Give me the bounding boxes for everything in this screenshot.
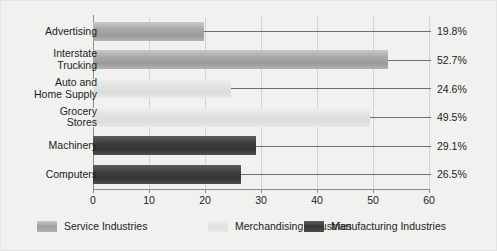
value-label: 52.7% (437, 54, 467, 66)
value-label: 19.8% (437, 25, 467, 37)
legend-label: Service Industries (64, 220, 147, 232)
leader-line (388, 60, 431, 61)
bar[interactable] (93, 136, 256, 155)
leader-line (370, 117, 431, 118)
value-label: 29.1% (437, 140, 467, 152)
x-tick-label: 20 (199, 194, 211, 206)
leader-line (256, 146, 431, 147)
x-tick-label: 50 (367, 194, 379, 206)
leader-line (241, 174, 431, 175)
x-tick-label: 10 (143, 194, 155, 206)
category-label: Interstate Trucking (53, 48, 97, 71)
legend-swatch-service (37, 221, 57, 232)
bar-row (93, 46, 429, 75)
x-tick (429, 189, 430, 193)
legend-item-manufacturing[interactable]: Manufacturing Industries (304, 220, 446, 232)
value-label: 49.5% (437, 111, 467, 123)
chart-legend: Service IndustriesMerchandising Industri… (1, 220, 497, 236)
bar-row (93, 103, 429, 132)
x-tick (373, 189, 374, 193)
value-label: 26.5% (437, 168, 467, 180)
x-tick (149, 189, 150, 193)
category-label: Grocery Stores (60, 106, 97, 129)
bar[interactable] (93, 79, 231, 98)
bar-row (93, 17, 429, 46)
leader-line (231, 88, 431, 89)
x-tick (261, 189, 262, 193)
bar[interactable] (93, 50, 388, 69)
category-label: Advertising (45, 26, 97, 38)
x-tick (317, 189, 318, 193)
bar-row (93, 74, 429, 103)
gridline-60 (429, 17, 430, 189)
category-label: Machinery (49, 140, 97, 152)
legend-label: Manufacturing Industries (331, 220, 446, 232)
leader-line (204, 31, 431, 32)
bar-chart: AdvertisingInterstate TruckingAuto and H… (0, 0, 497, 251)
x-tick (205, 189, 206, 193)
legend-item-service[interactable]: Service Industries (37, 220, 147, 232)
x-tick-label: 30 (255, 194, 267, 206)
bar[interactable] (93, 108, 370, 127)
plot-area (93, 17, 429, 189)
value-label: 24.6% (437, 83, 467, 95)
bar[interactable] (93, 22, 204, 41)
x-tick-label: 40 (311, 194, 323, 206)
x-tick-label: 60 (423, 194, 435, 206)
category-label: Auto and Home Supply (34, 77, 97, 100)
category-label: Computers (46, 169, 97, 181)
bar-row (93, 131, 429, 160)
bar-row (93, 160, 429, 189)
legend-swatch-merchandising (208, 221, 228, 232)
bar[interactable] (93, 165, 241, 184)
x-tick (93, 189, 94, 193)
legend-swatch-manufacturing (304, 221, 324, 232)
x-tick-label: 0 (90, 194, 96, 206)
